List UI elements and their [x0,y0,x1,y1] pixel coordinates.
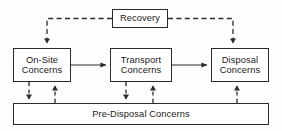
node-recovery-line-1: Recovery [120,13,160,23]
edge-recovery-to-onsite [47,19,112,44]
node-transport-concerns[interactable]: Transport Concerns [110,48,172,82]
node-recovery[interactable]: Recovery [112,9,168,28]
node-disposal-line-1: Disposal [222,55,258,65]
node-predisposal-line-1: Pre-Disposal Concerns [92,109,190,119]
node-transport-line-1: Transport [121,55,161,65]
edge-recovery-to-disposal [168,19,233,44]
node-transport-line-2: Concerns [121,65,162,75]
node-onsite-line-1: On-Site [26,55,58,65]
node-disposal-concerns[interactable]: Disposal Concerns [211,48,269,82]
node-onsite-concerns[interactable]: On-Site Concerns [13,48,71,82]
node-pre-disposal-concerns[interactable]: Pre-Disposal Concerns [13,103,269,125]
diagram-canvas: Recovery On-Site Concerns Transport Conc… [0,0,282,131]
node-onsite-line-2: Concerns [22,65,63,75]
node-disposal-line-2: Concerns [220,65,261,75]
